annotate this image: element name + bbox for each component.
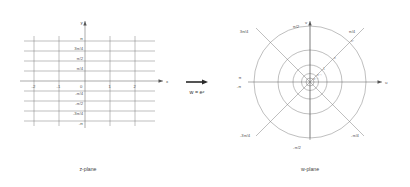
z-plane-caption: z-plane (79, 166, 96, 172)
w-ray-label-pi: π (239, 75, 242, 80)
z-ytick-neg-pi2: -π/2 (75, 101, 83, 106)
w-plane-caption: w-plane (301, 166, 319, 172)
w-circle-label-unit: 1 (323, 67, 325, 71)
z-ytick-pi2: π/2 (77, 56, 84, 61)
w-ray-label-neg-pi: -π (237, 84, 241, 89)
figure-canvas: x y -2 -1 1 2 0 π 3π/4 π/2 π/4 -π/4 -π/2… (0, 0, 410, 187)
w-circle-label-e-sq: e² (351, 39, 354, 43)
w-circle-label-e: e (334, 56, 336, 60)
mapping-label: w = eᶻ (189, 89, 205, 95)
w-ray-label-pi4: π/4 (349, 29, 356, 34)
z-ytick-neg-pi4: -π/4 (75, 91, 83, 96)
w-circle-label-e-neg1: e⁻¹ (317, 73, 322, 77)
w-ray-label-pi2: π/2 (293, 24, 300, 29)
z-ytick-3pi4: 3π/4 (74, 46, 83, 51)
w-ray-label-neg-pi2: -π/2 (293, 145, 301, 150)
w-ray-label-3pi4: 3π/4 (240, 29, 249, 34)
w-ray-label-neg-pi4: -π/4 (351, 133, 359, 138)
z-ytick-pi4: π/4 (77, 66, 84, 71)
conformal-mapping-figure: x y -2 -1 1 2 0 π 3π/4 π/2 π/4 -π/4 -π/2… (0, 0, 410, 187)
z-ytick-neg-pi: -π (79, 121, 83, 126)
w-ray-label-neg-3pi4: -3π/4 (240, 133, 251, 138)
z-ytick-pi: π (80, 36, 83, 41)
w-circle-label-e-neg2: e⁻² (314, 77, 319, 81)
z-ytick-neg-3pi4: -3π/4 (73, 111, 84, 116)
